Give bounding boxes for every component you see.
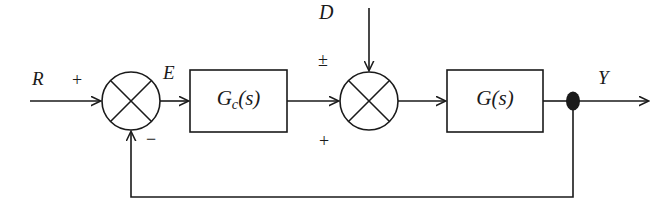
reference-plus-sign: +	[72, 71, 82, 89]
error-signal-label: E	[163, 63, 175, 82]
feedback-path-line	[131, 101, 573, 197]
controller-label-argument: (s)	[238, 86, 260, 110]
block-diagram-canvas	[0, 0, 654, 211]
controller-block-label: Gc(s)	[190, 88, 287, 111]
disturbance-signal-label: D	[319, 2, 333, 22]
feedback-minus-sign: −	[146, 130, 156, 148]
output-takeoff-dot	[566, 92, 580, 111]
output-signal-label: Y	[598, 68, 609, 87]
plant-block-label: G(s)	[447, 88, 543, 109]
forward-plus-sign: +	[319, 132, 329, 150]
reference-signal-label: R	[32, 69, 44, 88]
block-diagram: R E D Y + − ± + Gc(s) G(s)	[0, 0, 654, 211]
controller-label-main: G	[217, 86, 232, 110]
disturbance-plusminus-sign: ±	[318, 51, 328, 69]
plant-label-argument: (s)	[492, 86, 514, 110]
plant-label-main: G	[476, 86, 491, 110]
